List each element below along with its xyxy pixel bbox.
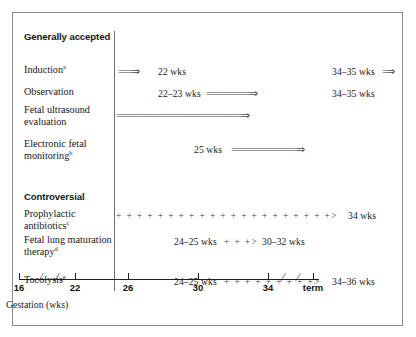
axis-break-mark: / [280, 271, 287, 283]
axis-tick-label-16: 16 [14, 282, 24, 293]
week-range-label: 24–25 wks [174, 235, 217, 249]
axis-tick-22 [75, 273, 76, 280]
double-arrow-segment: ==========⇒ [206, 87, 257, 101]
section-heading-controversial: Controversial [24, 191, 116, 202]
double-arrow-segment: ===============⇒ [231, 143, 303, 157]
axis-break-mark: / [54, 271, 61, 283]
axis-tick-label-34: 34 [263, 282, 273, 293]
week-range-label: 22–23 wks [158, 87, 201, 101]
timeline-track-fetal-ultrasound-evaluation: =============================⇒ [114, 109, 402, 123]
footnote-marker-d: d [55, 244, 58, 251]
week-range-label: 25 wks [194, 143, 222, 157]
week-range-label: 34 wks [348, 209, 376, 223]
double-arrow-segment: =============================⇒ [116, 109, 249, 123]
axis-line [19, 279, 319, 280]
plus-arrow-segment: + + + + + + + + + + + + + + + + + + + + … [116, 209, 338, 223]
timeline-track-observation: 22–23 wks==========⇒34–35 wks [114, 87, 402, 101]
axis-tick-34 [268, 273, 269, 280]
row-label-fetal-lung-maturation-therapy: Fetal lung maturation therapyd [24, 234, 116, 257]
footnote-marker-b: b [69, 148, 72, 155]
footnote-marker-a: a [63, 63, 66, 70]
row-label-induction: Inductiona [24, 64, 116, 76]
axis-tick-label-26: 26 [123, 282, 133, 293]
axis-tick-term [313, 273, 314, 280]
axis-tick-30 [198, 273, 199, 280]
row-label-fetal-ultrasound-evaluation: Fetal ultrasound evaluation [24, 104, 116, 127]
double-arrow-segment: ===⇒ [118, 65, 138, 79]
section-heading-generally-accepted: Generally accepted [24, 31, 116, 42]
week-range-label: 22 wks [158, 65, 186, 79]
week-range-label: 34–35 wks [332, 65, 375, 79]
week-range-label: 34–35 wks [332, 87, 375, 101]
week-range-label: 30–32 wks [262, 235, 305, 249]
axis-caption: Gestation (wks) [6, 299, 68, 310]
plus-arrow-segment: + + +> [224, 235, 258, 249]
axis-break-mark: / [38, 271, 45, 283]
axis-tick-label-30: 30 [193, 282, 203, 293]
gestation-timeline-figure: Generally acceptedInductionaObservationF… [12, 12, 403, 326]
row-label-electronic-fetal-monitoring: Electronic fetal monitoringb [24, 138, 116, 161]
row-label-prophylactic-antibiotics: Prophylactic antibioticsc [24, 208, 116, 231]
axis-tick-label-term: term [303, 282, 323, 293]
timeline-track-prophylactic-antibiotics: + + + + + + + + + + + + + + + + + + + + … [114, 209, 402, 223]
row-label-observation: Observation [24, 86, 116, 98]
footnote-marker-c: c [66, 218, 69, 225]
axis-tick-26 [128, 273, 129, 280]
axis-tick-16 [19, 273, 20, 280]
double-arrow-segment: =⇒ [382, 65, 394, 79]
timeline-track-electronic-fetal-monitoring: 25 wks===============⇒ [114, 143, 402, 157]
axis-tick-label-22: 22 [70, 282, 80, 293]
axis-break-mark: / [295, 271, 302, 283]
gestation-axis: Gestation (wks) 1622263034term//// [13, 269, 402, 325]
timeline-track-induction: ===⇒22 wks34–35 wks=⇒ [114, 65, 402, 79]
timeline-track-fetal-lung-maturation-therapy: 24–25 wks+ + +>30–32 wks [114, 235, 402, 249]
